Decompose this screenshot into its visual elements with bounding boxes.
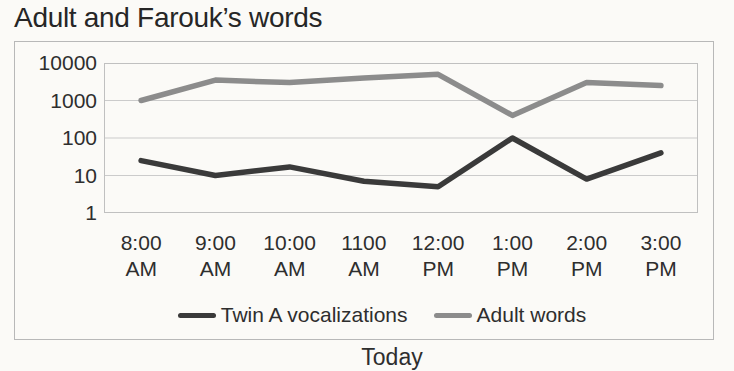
x-tick-label-200PM: 2:00PM	[545, 230, 629, 282]
x-axis-title: Today	[361, 344, 422, 371]
x-tick-meridiem: PM	[619, 256, 703, 282]
x-tick-label-1100AM: 1100AM	[322, 230, 406, 282]
y-tick-label-10000: 10000	[19, 50, 97, 76]
x-tick-time: 2:00	[545, 230, 629, 256]
chart-title: Adult and Farouk’s words	[14, 2, 322, 34]
legend-line-swatch	[434, 313, 472, 318]
x-tick-label-900AM: 9:00AM	[173, 230, 257, 282]
x-tick-label-1200PM: 12:00PM	[396, 230, 480, 282]
series-line-adult-words	[141, 74, 661, 115]
legend: Twin A vocalizationsAdult words	[15, 303, 713, 327]
x-tick-time: 8:00	[99, 230, 183, 256]
y-tick-label-1: 1	[19, 200, 97, 226]
x-tick-label-100PM: 1:00PM	[470, 230, 554, 282]
x-tick-time: 12:00	[396, 230, 480, 256]
y-tick-label-1000: 1000	[19, 88, 97, 114]
x-tick-meridiem: AM	[322, 256, 406, 282]
x-tick-meridiem: PM	[470, 256, 554, 282]
series-line-twin-a-vocalizations	[141, 138, 661, 187]
x-tick-time: 1100	[322, 230, 406, 256]
legend-line-swatch	[178, 313, 216, 318]
legend-item-adult-words: Adult words	[434, 303, 587, 327]
x-tick-meridiem: PM	[396, 256, 480, 282]
legend-label: Twin A vocalizations	[221, 303, 408, 327]
x-tick-time: 3:00	[619, 230, 703, 256]
y-tick-label-100: 100	[19, 125, 97, 151]
x-tick-label-300PM: 3:00PM	[619, 230, 703, 282]
x-tick-label-800AM: 8:00AM	[99, 230, 183, 282]
plot-area	[104, 63, 698, 213]
x-tick-time: 1:00	[470, 230, 554, 256]
x-tick-meridiem: AM	[173, 256, 257, 282]
x-tick-meridiem: AM	[99, 256, 183, 282]
x-tick-meridiem: PM	[545, 256, 629, 282]
chart-figure-box: 100001000100101 8:00AM9:00AM10:00AM1100A…	[14, 41, 714, 340]
y-tick-label-10: 10	[19, 163, 97, 189]
x-tick-meridiem: AM	[248, 256, 332, 282]
plot-canvas	[104, 63, 698, 213]
legend-label: Adult words	[477, 303, 587, 327]
x-tick-time: 10:00	[248, 230, 332, 256]
legend-item-twin-a-vocalizations: Twin A vocalizations	[178, 303, 408, 327]
x-tick-label-1000AM: 10:00AM	[248, 230, 332, 282]
x-tick-time: 9:00	[173, 230, 257, 256]
